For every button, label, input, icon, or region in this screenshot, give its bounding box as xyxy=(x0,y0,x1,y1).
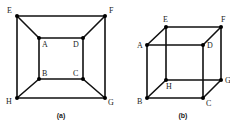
vertex-G xyxy=(103,96,107,100)
vertex-C xyxy=(201,96,205,100)
vertex-label-G: G xyxy=(108,98,114,107)
edge-GC xyxy=(83,79,105,98)
vertex-label-A: A xyxy=(137,41,143,50)
edge-HB xyxy=(17,79,39,98)
vertex-label-B: B xyxy=(137,97,142,106)
vertex-label-C: C xyxy=(73,69,78,78)
vertex-E xyxy=(164,25,168,29)
vertex-label-E: E xyxy=(163,15,168,24)
vertex-H xyxy=(15,96,19,100)
vertex-D xyxy=(81,36,85,40)
vertex-E xyxy=(15,14,19,18)
caption-a: (a) xyxy=(57,112,66,120)
vertex-G xyxy=(219,78,223,82)
figure-a-planar-cube: EFADBCHG xyxy=(6,6,114,107)
edge-BH xyxy=(147,80,166,98)
edge-EA xyxy=(17,16,39,38)
edge-FD xyxy=(83,16,105,38)
vertex-A xyxy=(145,43,149,47)
vertex-label-A: A xyxy=(42,40,48,49)
vertex-label-H: H xyxy=(6,97,12,106)
figure-b-perspective-cube: EFADHGBC xyxy=(137,15,230,108)
vertex-A xyxy=(37,36,41,40)
vertex-D xyxy=(201,43,205,47)
vertex-label-E: E xyxy=(7,6,12,15)
vertex-label-F: F xyxy=(221,15,226,24)
vertex-B xyxy=(37,77,41,81)
vertex-C xyxy=(81,77,85,81)
vertex-F xyxy=(219,25,223,29)
caption-b: (b) xyxy=(179,112,188,120)
vertex-label-F: F xyxy=(109,6,114,15)
vertex-label-B: B xyxy=(42,69,47,78)
vertex-label-H: H xyxy=(166,82,172,91)
edge-AE xyxy=(147,27,166,45)
vertex-B xyxy=(145,96,149,100)
vertex-label-C: C xyxy=(206,99,211,108)
vertex-label-G: G xyxy=(225,76,230,85)
vertex-F xyxy=(103,14,107,18)
vertex-label-D: D xyxy=(207,41,213,50)
vertex-label-D: D xyxy=(73,40,79,49)
diagram-canvas: EFADBCHG EFADHGBC (a) (b) xyxy=(0,0,230,125)
edge-CG xyxy=(203,80,221,98)
